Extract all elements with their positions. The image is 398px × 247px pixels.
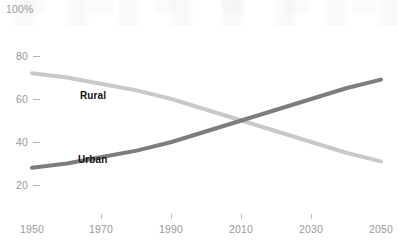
series-label-urban: Urban	[78, 154, 107, 165]
line-chart-urban-rural: 100% 80 60 40 20 1950 1970 1990 2010 203…	[0, 0, 398, 247]
series-label-rural: Rural	[80, 90, 106, 101]
plot-area	[0, 0, 398, 247]
series-line-rural	[32, 73, 381, 161]
